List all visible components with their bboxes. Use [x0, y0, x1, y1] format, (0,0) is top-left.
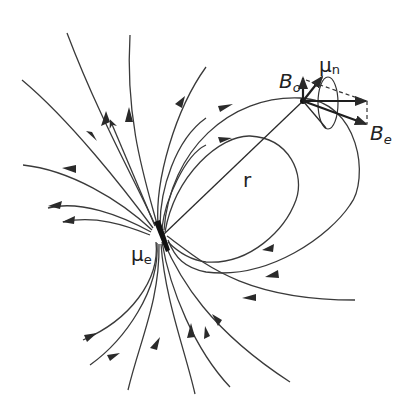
field-line: [48, 206, 151, 232]
arrow-icon: [187, 323, 195, 338]
arrow-icon: [62, 165, 76, 173]
distance-vector-r: [164, 101, 303, 234]
label-b0: Bo: [279, 69, 301, 95]
field-line: [162, 242, 230, 387]
arrow-icon: [150, 337, 160, 350]
arrow-icon: [242, 294, 256, 301]
field-line: [129, 35, 157, 224]
arrow-icon: [86, 131, 97, 141]
labels: Bo μn Be r μe: [131, 53, 392, 267]
field-line: [165, 136, 299, 262]
arrow-icon: [265, 270, 279, 278]
arrow-icon: [218, 104, 233, 112]
field-line: [111, 122, 155, 226]
arrow-icon: [262, 244, 274, 252]
label-mu-n: μn: [319, 53, 340, 77]
field-line: [63, 220, 150, 235]
field-line: [164, 98, 359, 273]
dipole-field-diagram: Bo μn Be r μe: [0, 0, 412, 410]
label-r: r: [243, 168, 252, 192]
label-be: Be: [370, 121, 392, 147]
arrow-icon: [212, 314, 222, 326]
field-lines: [22, 33, 359, 394]
arrow-icon: [204, 326, 210, 339]
dashed-construction: [306, 80, 366, 101]
arrow-icon: [84, 333, 97, 342]
label-mu-e: μe: [131, 242, 152, 267]
nucleus-vectors: [300, 77, 367, 129]
arrow-icon: [62, 216, 75, 224]
arrow-icon: [101, 111, 110, 126]
field-line: [22, 80, 153, 228]
arrow-icon: [107, 353, 120, 361]
